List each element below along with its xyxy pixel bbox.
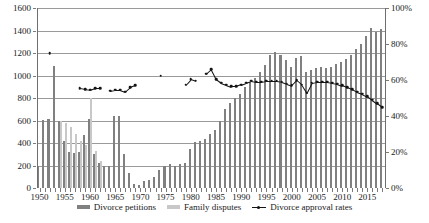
y-axis-left-tick-label: 0 [0, 184, 31, 193]
bar-divorce-petitions [365, 36, 367, 188]
bar-divorce-petitions [264, 65, 266, 188]
bar-divorce-petitions [123, 154, 125, 188]
bar-divorce-petitions [229, 103, 231, 189]
bar-divorce-petitions [158, 170, 160, 188]
legend-bar-swatch-icon [167, 205, 180, 209]
bar-family-disputes [70, 127, 72, 188]
bar-family-disputes [90, 98, 92, 188]
x-axis-tick-label: 1955 [56, 193, 74, 202]
bar-divorce-petitions [148, 180, 150, 188]
bar-family-disputes [100, 161, 102, 188]
legend-item: Divorce approval rates [252, 202, 352, 212]
x-axis-tick-label: 1950 [31, 193, 49, 202]
bar-divorce-petitions [360, 44, 362, 188]
x-axis-tick-label: 1980 [182, 193, 200, 202]
bar-divorce-petitions [58, 121, 60, 189]
bar-divorce-petitions [209, 134, 211, 188]
axis-line-right [385, 8, 386, 188]
x-axis-tick-label: 1960 [81, 193, 99, 202]
bar-divorce-petitions [78, 152, 80, 188]
bar-divorce-petitions [214, 130, 216, 189]
bar-divorce-petitions [370, 28, 372, 188]
bar-family-disputes [60, 121, 62, 189]
bar-divorce-petitions [259, 72, 261, 188]
x-axis-tickmark [302, 188, 303, 192]
x-axis-tickmark [251, 188, 252, 192]
x-axis-tickmark [377, 188, 378, 192]
x-axis-tickmark [201, 188, 202, 192]
x-axis-tick-label: 1975 [157, 193, 175, 202]
bar-divorce-petitions [219, 121, 221, 189]
x-axis-tickmark [75, 188, 76, 192]
bar-family-disputes [65, 123, 67, 188]
x-axis-tick-label: 1970 [131, 193, 149, 202]
bar-divorce-petitions [47, 119, 49, 188]
chart-legend: Divorce petitionsFamily disputesDivorce … [0, 202, 429, 212]
bar-divorce-petitions [350, 55, 352, 188]
bar-divorce-petitions [189, 149, 191, 188]
x-axis-tick-label: 1985 [207, 193, 225, 202]
bar-divorce-petitions [300, 56, 302, 188]
bar-divorce-petitions [340, 62, 342, 188]
x-axis-tick-label: 1990 [232, 193, 250, 202]
bar-divorce-petitions [380, 29, 382, 188]
bar-divorce-petitions [174, 166, 176, 189]
legend-label: Divorce approval rates [270, 202, 352, 212]
bar-divorce-petitions [224, 109, 226, 188]
y-axis-right-tick-label: 100% [391, 4, 412, 13]
x-axis-tickmark [50, 188, 51, 192]
x-axis-tickmark [382, 188, 383, 192]
y-axis-right-tick-label: 0% [391, 184, 403, 193]
x-axis-tickmark [352, 188, 353, 192]
bar-divorce-petitions [184, 163, 186, 188]
bar-divorce-petitions [269, 55, 271, 188]
bar-divorce-petitions [345, 59, 347, 188]
bar-divorce-petitions [103, 166, 105, 189]
bar-divorce-petitions [73, 153, 75, 188]
bar-divorce-petitions [295, 58, 297, 189]
gridline [37, 31, 385, 32]
bar-divorce-petitions [163, 166, 165, 189]
y-axis-right-tickmark [386, 8, 389, 9]
y-axis-left-tick-label: 800 [0, 94, 31, 103]
x-axis-tick-label: 2000 [283, 193, 301, 202]
bar-divorce-petitions [98, 163, 100, 188]
bar-divorce-petitions [88, 119, 90, 188]
bar-divorce-petitions [234, 98, 236, 188]
x-axis-tickmark [150, 188, 151, 192]
data-point-marker [195, 80, 198, 83]
bar-divorce-petitions [53, 66, 55, 188]
bar-divorce-petitions [42, 120, 44, 188]
legend-item: Divorce petitions [77, 202, 156, 212]
x-axis-tickmark [226, 188, 227, 192]
data-point-marker [48, 52, 51, 55]
x-axis-tickmark [327, 188, 328, 192]
y-axis-right-tick-label: 40% [391, 112, 408, 121]
bar-divorce-petitions [143, 181, 145, 188]
bar-family-disputes [80, 141, 82, 188]
x-axis-tickmark [125, 188, 126, 192]
x-axis-tick-label: 2015 [358, 193, 376, 202]
bar-divorce-petitions [355, 49, 357, 189]
bar-divorce-petitions [330, 67, 332, 189]
bar-divorce-petitions [320, 67, 322, 189]
bar-divorce-petitions [68, 152, 70, 188]
bar-family-disputes [95, 151, 97, 188]
bar-divorce-petitions [249, 82, 251, 188]
bar-divorce-petitions [37, 166, 39, 189]
data-point-marker [99, 87, 102, 90]
y-axis-right-tickmark [386, 116, 389, 117]
x-axis-tickmark [277, 188, 278, 192]
bar-divorce-petitions [128, 173, 130, 188]
data-point-marker [381, 106, 384, 109]
bar-divorce-petitions [113, 116, 115, 188]
y-axis-right-tick-label: 80% [391, 40, 408, 49]
gridline [37, 8, 385, 9]
bar-divorce-petitions [83, 135, 85, 188]
x-axis-tick-label: 1965 [106, 193, 124, 202]
y-axis-left-tick-label: 600 [0, 116, 31, 125]
bar-divorce-petitions [285, 60, 287, 188]
legend-label: Divorce petitions [94, 202, 156, 212]
bar-divorce-petitions [179, 164, 181, 188]
legend-item: Family disputes [167, 202, 241, 212]
